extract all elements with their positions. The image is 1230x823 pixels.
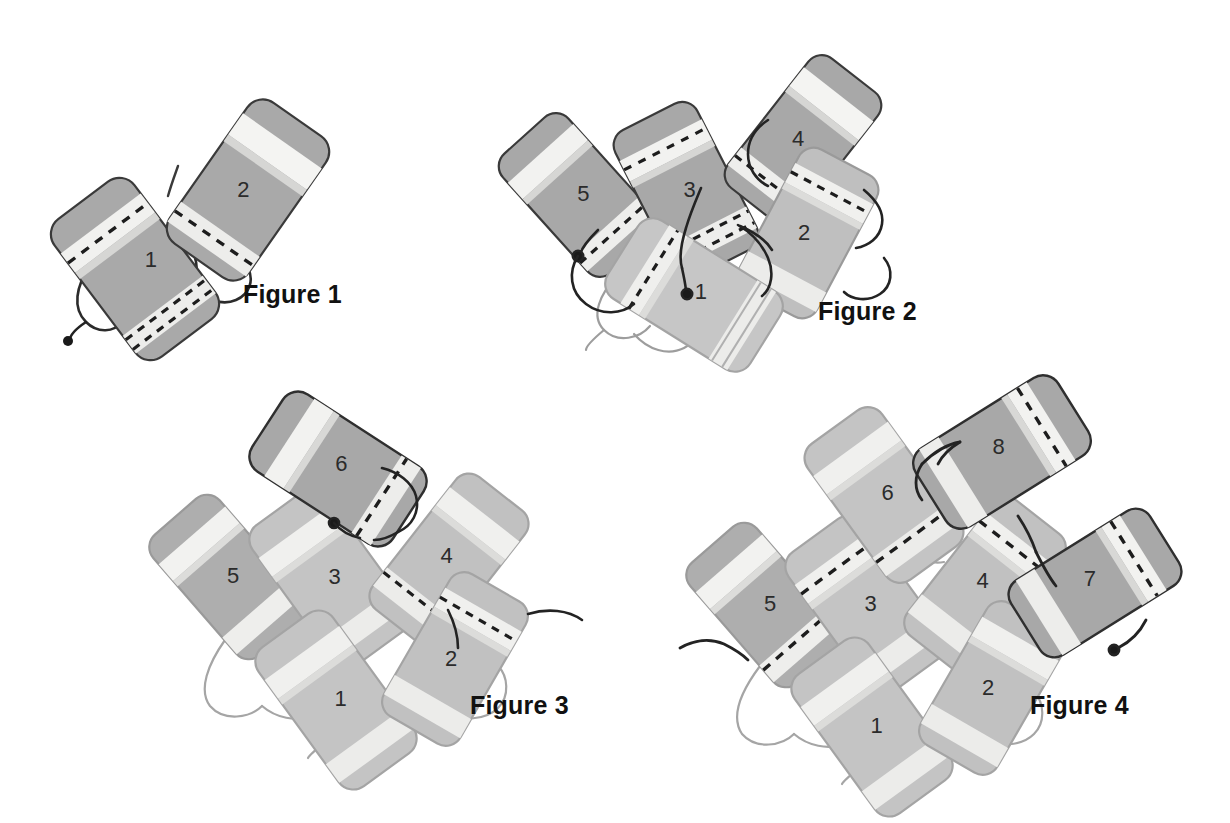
block-number: 4: [976, 568, 988, 593]
block-number: 2: [445, 646, 457, 671]
block-number: 5: [764, 591, 776, 616]
figure-2-caption: Figure 2: [818, 297, 917, 325]
block-number: 1: [695, 279, 707, 304]
figure-4-group: 5 3 1 6: [679, 368, 1188, 823]
figure-3-caption: Figure 3: [470, 691, 569, 719]
block-number: 2: [798, 220, 810, 245]
figure-2-group: 5 3 4 2: [492, 48, 917, 378]
figures-svg: 1 2 Figure 1: [0, 0, 1230, 823]
cord-end-dot-3: [682, 289, 692, 299]
block-number: 5: [577, 181, 589, 206]
block-number: 3: [865, 591, 877, 616]
figure-1-caption: Figure 1: [243, 280, 342, 308]
block-number: 7: [1084, 566, 1096, 591]
block-number: 3: [684, 177, 696, 202]
block-number: 1: [145, 247, 157, 272]
cord-end-dot-7: [1109, 645, 1119, 655]
figure-3-group: 5 3 1 4: [142, 385, 582, 797]
block-number: 5: [227, 563, 239, 588]
diagram-canvas: 1 2 Figure 1: [0, 0, 1230, 823]
block-number: 6: [335, 451, 347, 476]
figure-1-group: 1 2 Figure 1: [43, 92, 342, 368]
block-number: 6: [881, 480, 893, 505]
block-number: 2: [982, 675, 994, 700]
block-number: 2: [237, 177, 249, 202]
block-number: 1: [335, 686, 347, 711]
cord-end-dot: [63, 336, 73, 346]
block-number: 4: [792, 126, 804, 151]
block-number: 1: [871, 713, 883, 738]
figure-4-caption: Figure 4: [1030, 691, 1129, 719]
block-number: 4: [440, 543, 452, 568]
block-number: 8: [992, 434, 1004, 459]
block-number: 3: [329, 564, 341, 589]
